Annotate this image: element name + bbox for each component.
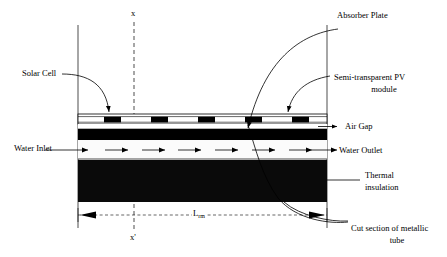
label-cut-section-metallic-tube-line2: tube [351,235,443,246]
solar-cell-leader [62,74,109,112]
diagram-vector-layer [0,0,447,257]
label-water-outlet: Water Outlet [339,145,382,156]
solar-cell [245,117,262,123]
label-semi-transparent-pv-module-line1: Semi-transparent PV [334,72,405,83]
dimension-label-Lrm: Lrm [192,208,206,218]
water-channel-layer [78,140,327,159]
solar-cell [104,117,121,123]
axis-label-x-prime-bottom: x' [130,232,136,242]
solar-cell [151,117,168,123]
label-air-gap: Air Gap [345,121,373,132]
label-absorber-plate: Absorber Plate [337,10,388,21]
thermal-insulation-layer [78,160,327,202]
label-thermal-insulation-line1: Thermal [365,170,394,181]
solar-cell [198,117,215,123]
semi-transparent-pv-leader [288,76,330,112]
figure-canvas: Solar Cell Water Inlet Absorber Plate Se… [0,0,447,257]
solar-cell [292,117,309,123]
dimension-subscript: rm [198,213,205,219]
axis-label-x-top: x [131,8,135,18]
label-semi-transparent-pv-module-line2: module [334,84,434,95]
label-solar-cell: Solar Cell [22,68,56,79]
label-thermal-insulation-line2: insulation [365,182,399,193]
absorber-plate-leader [248,29,338,128]
label-cut-section-metallic-tube-line1: Cut section of metallic [351,223,428,234]
label-water-inlet: Water Inlet [14,143,52,154]
absorber-plate-layer [78,129,327,140]
air-gap-layer [78,124,327,129]
